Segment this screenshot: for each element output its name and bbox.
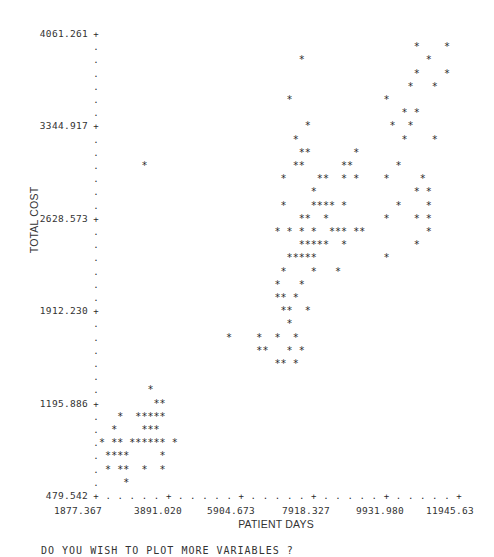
data-point: *	[298, 280, 306, 290]
data-point: *	[352, 174, 360, 184]
x-tick-label: 5904.673	[191, 506, 271, 516]
y-axis-tick: +	[92, 121, 100, 131]
data-point: *	[280, 267, 288, 277]
y-axis-dot: .	[92, 135, 100, 145]
data-point: *	[304, 306, 312, 316]
data-point: *	[382, 214, 390, 224]
y-tick-label: 2628.573	[8, 214, 88, 224]
data-point: *	[431, 135, 439, 145]
x-axis-dot: .	[334, 491, 342, 501]
data-point: *	[298, 55, 306, 65]
data-point: *	[110, 425, 118, 435]
data-point: *	[140, 161, 148, 171]
data-point: *	[425, 201, 433, 211]
x-axis-dot: .	[274, 491, 282, 501]
y-axis-dot: .	[92, 372, 100, 382]
y-axis-dot: .	[92, 174, 100, 184]
x-axis-dot: .	[358, 491, 366, 501]
data-point: *	[358, 227, 366, 237]
x-axis-dot: .	[225, 491, 233, 501]
x-axis-dot: .	[407, 491, 415, 501]
data-point: *	[298, 161, 306, 171]
data-point: *	[413, 240, 421, 250]
y-axis-dot: .	[92, 293, 100, 303]
data-point: *	[280, 293, 288, 303]
y-axis-dot: .	[92, 69, 100, 79]
data-point: *	[159, 412, 167, 422]
data-point: *	[340, 201, 348, 211]
data-point: *	[352, 148, 360, 158]
data-point: *	[274, 280, 282, 290]
data-point: *	[322, 174, 330, 184]
x-axis-dot: .	[116, 491, 124, 501]
data-point: *	[255, 333, 263, 343]
data-point: *	[280, 359, 288, 369]
data-point: *	[146, 385, 154, 395]
data-point: *	[122, 465, 130, 475]
data-point: *	[280, 201, 288, 211]
data-point: *	[334, 267, 342, 277]
y-tick-label: 1195.886	[8, 399, 88, 409]
y-axis-dot: .	[92, 478, 100, 488]
y-axis-tick: +	[92, 29, 100, 39]
data-point: *	[298, 227, 306, 237]
x-axis-dot: .	[201, 491, 209, 501]
x-tick-label: 7918.327	[266, 506, 346, 516]
x-axis-dot: .	[249, 491, 257, 501]
x-axis-dot: .	[261, 491, 269, 501]
data-point: *	[310, 267, 318, 277]
data-point: *	[395, 161, 403, 171]
data-point: *	[310, 187, 318, 197]
x-axis-dot: .	[128, 491, 136, 501]
data-point: *	[159, 465, 167, 475]
y-tick-label: 1912.230	[8, 306, 88, 316]
data-point: *	[304, 121, 312, 131]
data-point: *	[171, 438, 179, 448]
console-prompt: DO YOU WISH TO PLOT MORE VARIABLES ?	[41, 545, 294, 557]
x-axis-tick: +	[455, 491, 463, 501]
data-point: *	[401, 135, 409, 145]
x-axis-dot: .	[431, 491, 439, 501]
data-point: *	[159, 399, 167, 409]
x-axis-tick: +	[382, 491, 390, 501]
data-point: *	[140, 465, 148, 475]
data-point: *	[292, 333, 300, 343]
data-point: *	[407, 82, 415, 92]
x-axis-tick: +	[165, 491, 173, 501]
data-point: *	[286, 227, 294, 237]
y-axis-dot: .	[92, 55, 100, 65]
y-axis-dot: .	[92, 148, 100, 158]
data-point: *	[286, 95, 294, 105]
y-axis-dot: .	[92, 465, 100, 475]
x-tick-label: 9931.980	[340, 506, 420, 516]
data-point: *	[159, 438, 167, 448]
x-axis-dot: .	[395, 491, 403, 501]
data-point: *	[261, 346, 269, 356]
y-axis-dot: .	[92, 359, 100, 369]
y-axis-dot: .	[92, 451, 100, 461]
data-point: *	[413, 69, 421, 79]
data-point: *	[431, 82, 439, 92]
y-axis-dot: .	[92, 187, 100, 197]
x-axis-title: PATIENT DAYS	[238, 518, 314, 530]
y-axis-dot: .	[92, 333, 100, 343]
data-point: *	[419, 174, 427, 184]
data-point: *	[425, 55, 433, 65]
data-point: *	[401, 108, 409, 118]
y-axis-tick: +	[92, 491, 100, 501]
y-axis-tick: +	[92, 399, 100, 409]
data-point: *	[413, 187, 421, 197]
data-point: *	[346, 161, 354, 171]
data-point: *	[407, 121, 415, 131]
y-axis-dot: .	[92, 95, 100, 105]
data-point: *	[382, 253, 390, 263]
data-point: *	[225, 333, 233, 343]
data-point: *	[280, 174, 288, 184]
y-tick-label: 479.542	[8, 491, 88, 501]
data-point: *	[322, 214, 330, 224]
data-point: *	[122, 451, 130, 461]
y-axis-dot: .	[92, 412, 100, 422]
y-axis-dot: .	[92, 42, 100, 52]
y-axis-dot: .	[92, 201, 100, 211]
